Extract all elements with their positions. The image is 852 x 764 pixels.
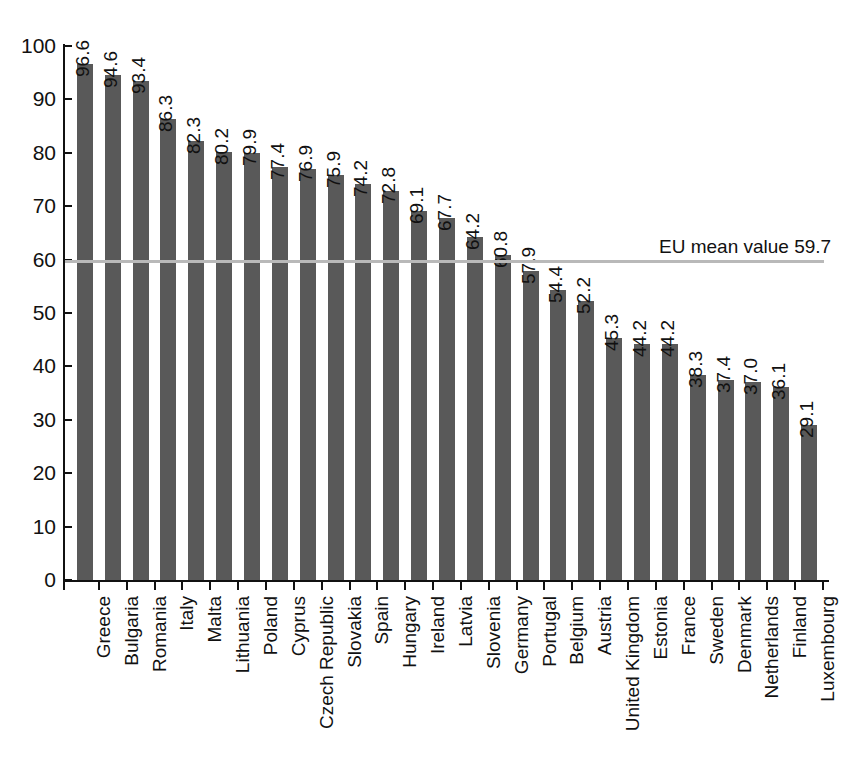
bar-value-label: 77.4: [268, 143, 287, 180]
y-axis-tick-label-text: 90: [8, 88, 56, 109]
y-axis-tick-label: 50: [0, 302, 56, 323]
eu-mean-reference-line: [65, 260, 824, 263]
bar-value-label: 29.1: [797, 401, 816, 438]
bar-value-label: 76.9: [296, 145, 315, 182]
x-axis-tick: [738, 582, 740, 590]
bar: [383, 191, 399, 580]
bar-value-label: 79.9: [240, 129, 259, 166]
y-axis-tick-label-text: 80: [8, 142, 56, 163]
y-axis-tick-label-text: 60: [8, 249, 56, 270]
bar-value-label: 67.7: [435, 194, 454, 231]
x-axis-category-label: Lithuania: [233, 596, 252, 673]
x-axis-category-label: Poland: [261, 596, 280, 655]
bar-value-label: 64.2: [463, 213, 482, 250]
x-axis-category-label: Malta: [205, 596, 224, 642]
x-axis-category-label: Spain: [372, 596, 391, 645]
bar: [77, 64, 93, 580]
bar: [718, 380, 734, 580]
x-axis-line: [63, 580, 829, 582]
x-axis-category-label: Greece: [94, 596, 113, 658]
x-axis-tick: [376, 582, 378, 590]
y-axis-tick: [65, 526, 72, 528]
x-axis-tick: [349, 582, 351, 590]
y-axis-tick-label-text: 70: [8, 195, 56, 216]
x-axis-tick: [543, 582, 545, 590]
y-axis-tick: [65, 205, 72, 207]
bar-value-label: 86.3: [156, 95, 175, 132]
bar-chart: 0102030405060708090100 96.694.693.486.38…: [0, 0, 852, 764]
x-axis-category-label: Bulgaria: [122, 596, 141, 666]
bar: [439, 218, 455, 580]
x-axis-tick: [237, 582, 239, 590]
bar-value-label: 80.2: [212, 128, 231, 165]
bar: [550, 290, 566, 580]
y-axis-tick: [65, 152, 72, 154]
y-axis-tick-label-text: 0: [8, 569, 56, 590]
bar: [105, 75, 121, 580]
bar: [495, 255, 511, 580]
y-axis-tick: [65, 365, 72, 367]
x-axis-category-label: Ireland: [428, 596, 447, 654]
bar: [244, 153, 260, 580]
bar-value-label: 93.4: [129, 57, 148, 94]
bar-value-label: 75.9: [324, 151, 343, 188]
x-axis-category-label: Belgium: [567, 596, 586, 665]
bar: [328, 175, 344, 580]
x-axis-category-label: Germany: [512, 596, 531, 674]
bar: [634, 344, 650, 580]
y-axis-tick: [65, 45, 72, 47]
bar: [523, 271, 539, 580]
y-axis-tick: [65, 312, 72, 314]
y-axis-tick-label: 90: [0, 88, 56, 109]
y-axis-tick-label: 60: [0, 249, 56, 270]
x-axis-category-label: Portugal: [540, 596, 559, 667]
bar: [662, 344, 678, 580]
x-axis-category-label: Netherlands: [762, 596, 781, 698]
y-axis-tick-label: 100: [0, 35, 56, 56]
x-axis-tick: [655, 582, 657, 590]
x-axis-category-label: Slovakia: [345, 596, 364, 668]
bar: [690, 375, 706, 580]
x-axis-tick: [488, 582, 490, 590]
x-axis-tick: [265, 582, 267, 590]
y-axis-tick: [65, 419, 72, 421]
x-axis-tick: [711, 582, 713, 590]
bar-value-label: 96.6: [73, 40, 92, 77]
x-axis-category-label: Latvia: [456, 596, 475, 647]
bar-value-label: 74.2: [351, 160, 370, 197]
bar-value-label: 37.0: [741, 358, 760, 395]
x-axis-tick: [460, 582, 462, 590]
y-axis-tick-label-text: 20: [8, 462, 56, 483]
x-axis-category-label: Cyprus: [289, 596, 308, 656]
y-axis-tick-label: 30: [0, 409, 56, 430]
bar-value-label: 69.1: [407, 187, 426, 224]
bar-value-label: 45.3: [602, 314, 621, 351]
y-axis-tick-label: 80: [0, 142, 56, 163]
x-axis-category-label: Italy: [177, 596, 196, 631]
x-axis-tick: [627, 582, 629, 590]
x-axis-tick: [181, 582, 183, 590]
bar-value-label: 72.8: [379, 167, 398, 204]
x-axis-category-label: Estonia: [651, 596, 670, 659]
bar-value-label: 82.3: [184, 117, 203, 154]
bar: [355, 184, 371, 580]
x-axis-category-label: Slovenia: [484, 596, 503, 669]
x-axis-tick: [766, 582, 768, 590]
eu-mean-annotation-label: EU mean value 59.7: [659, 237, 831, 256]
bar: [745, 382, 761, 580]
x-axis-tick: [98, 582, 100, 590]
x-axis-category-label: Romania: [150, 596, 169, 672]
bar-value-label: 44.2: [630, 320, 649, 357]
x-axis-tick: [571, 582, 573, 590]
bar: [216, 152, 232, 580]
x-axis-tick: [432, 582, 434, 590]
x-axis-tick: [154, 582, 156, 590]
y-axis-tick: [65, 579, 72, 581]
bar-value-label: 57.9: [519, 247, 538, 284]
bar-value-label: 52.2: [574, 277, 593, 314]
y-axis-tick: [65, 472, 72, 474]
x-axis-tick: [63, 582, 65, 590]
x-axis-tick: [126, 582, 128, 590]
x-axis-category-label: Czech Republic: [317, 596, 336, 729]
bar: [773, 387, 789, 580]
